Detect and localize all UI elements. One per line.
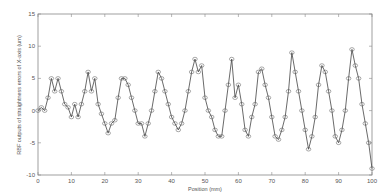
- y-axis-label: RBF outputs of straightness errors of X-…: [16, 35, 22, 155]
- x-tick-label: 30: [135, 178, 142, 184]
- y-tick-label: 5: [32, 75, 36, 81]
- x-tick-label: 50: [202, 178, 209, 184]
- x-tick-label: 100: [367, 178, 378, 184]
- line-chart: -10-5051015 0102030405060708090100 Posit…: [0, 0, 391, 194]
- x-tick-label: 20: [101, 178, 108, 184]
- x-tick-label: 90: [335, 178, 342, 184]
- y-tick-label: 10: [28, 43, 35, 49]
- x-tick-label: 40: [168, 178, 175, 184]
- x-axis-label: Position (mm): [188, 186, 222, 192]
- x-tick-label: 70: [268, 178, 275, 184]
- y-tick-label: 0: [32, 108, 36, 114]
- x-tick-label: 10: [68, 178, 75, 184]
- x-tick-label: 0: [36, 178, 40, 184]
- x-tick-label: 80: [302, 178, 309, 184]
- y-tick-label: 15: [28, 11, 35, 17]
- y-tick-label: -5: [30, 140, 36, 146]
- x-tick-label: 60: [235, 178, 242, 184]
- y-tick-label: -10: [26, 172, 35, 178]
